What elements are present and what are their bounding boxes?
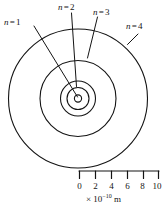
shell-label-n3-equals: =: [98, 7, 105, 17]
shell-circle-n2: [61, 81, 96, 116]
leader-line-n3: [88, 17, 98, 58]
shell-label-n1-equals: =: [9, 17, 16, 27]
shell-label-n2: n=2: [58, 2, 75, 12]
shell-label-n1-value: 1: [16, 17, 21, 27]
scale-tick-label-6: 6: [122, 181, 133, 191]
shell-diagram-canvas: [0, 0, 167, 207]
shell-circle-n1: [67, 88, 89, 110]
leader-line-n4: [128, 34, 139, 45]
shell-label-n2-value: 2: [70, 2, 75, 12]
shell-circle-n3: [40, 61, 116, 137]
shell-label-n3-value: 3: [105, 7, 110, 17]
shell-label-n4-equals: =: [131, 21, 138, 31]
nucleus-icon: [74, 95, 81, 102]
scale-tick-label-10: 10: [150, 181, 164, 191]
shell-label-n1: n=1: [4, 17, 21, 27]
scale-tick-label-8: 8: [137, 181, 148, 191]
shell-label-n2-symbol: n: [58, 2, 63, 12]
scale-tick-label-4: 4: [106, 181, 117, 191]
shell-label-n4-value: 4: [138, 21, 143, 31]
shell-label-n3: n=3: [93, 7, 110, 17]
shell-label-n3-symbol: n: [93, 7, 98, 17]
scale-unit-symbol: m: [114, 194, 121, 204]
shell-label-n1-symbol: n: [4, 17, 9, 27]
scale-tick-label-0: 0: [74, 181, 85, 191]
scale-unit-label: × 10−10 m: [86, 194, 121, 205]
scale-unit-exponent: −10: [102, 193, 111, 199]
scale-tick-label-2: 2: [90, 181, 101, 191]
leader-line-n2: [72, 13, 77, 87]
scale-unit-multiplier: × 10: [86, 194, 102, 204]
shell-label-n4-symbol: n: [126, 21, 131, 31]
shell-label-n2-equals: =: [63, 2, 70, 12]
shell-label-n4: n=4: [126, 21, 143, 31]
shell-circle-n4: [9, 29, 148, 168]
